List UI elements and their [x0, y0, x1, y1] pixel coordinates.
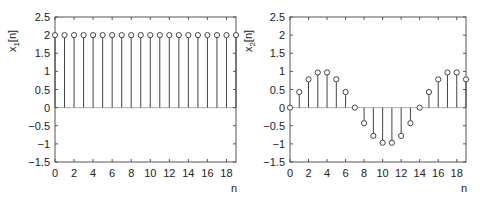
y-tick-label: 0.5	[35, 84, 50, 96]
plot-frame	[290, 17, 466, 162]
stem-marker	[81, 33, 86, 38]
x-tick-label: 2	[71, 167, 77, 179]
stem-marker	[129, 33, 134, 38]
x-tick-label: 12	[163, 167, 175, 179]
x-tick-label: 0	[287, 167, 293, 179]
y-tick-label: 2.5	[270, 11, 285, 23]
stem-marker	[71, 33, 76, 38]
x-tick-label: 18	[220, 167, 232, 179]
x-tick-label: 6	[343, 167, 349, 179]
stem-marker	[100, 33, 105, 38]
stem-marker	[436, 77, 441, 82]
stem-marker	[110, 33, 115, 38]
stem-marker	[417, 105, 422, 110]
x-axis-label: n	[461, 182, 467, 194]
x-tick-label: 10	[144, 167, 156, 179]
y-tick-label: 2	[44, 29, 50, 41]
stem-marker	[148, 33, 153, 38]
stem-marker	[91, 33, 96, 38]
x-tick-label: 4	[324, 167, 330, 179]
x-tick-label: 18	[451, 167, 463, 179]
stem-marker	[186, 33, 191, 38]
y-tick-label: 1.5	[35, 47, 50, 59]
stem-marker	[297, 89, 302, 94]
stem-marker	[287, 105, 292, 110]
stem-marker	[352, 105, 357, 110]
plot-x2: 024681012141618−1.5−1−0.500.511.522.5nx2…	[242, 11, 469, 194]
y-tick-label: −0.5	[263, 120, 285, 132]
y-tick-label: 1	[44, 65, 50, 77]
stem-marker	[62, 33, 67, 38]
stem-marker	[463, 77, 468, 82]
y-tick-label: 1	[279, 65, 285, 77]
stem-marker	[343, 89, 348, 94]
stem-marker	[224, 33, 229, 38]
x-tick-label: 8	[361, 167, 367, 179]
stem-marker	[214, 33, 219, 38]
y-tick-label: −1	[272, 138, 285, 150]
x-tick-label: 8	[128, 167, 134, 179]
x-tick-label: 12	[395, 167, 407, 179]
y-tick-label: −1.5	[28, 156, 50, 168]
stem-marker	[138, 33, 143, 38]
stem-marker	[454, 70, 459, 75]
y-tick-label: 2	[279, 29, 285, 41]
stem-marker	[408, 121, 413, 126]
y-tick-label: 0.5	[270, 84, 285, 96]
x-tick-label: 16	[432, 167, 444, 179]
stem-marker	[167, 33, 172, 38]
x-tick-label: 0	[52, 167, 58, 179]
stem-marker	[371, 133, 376, 138]
stem-marker	[306, 77, 311, 82]
y-tick-label: 1.5	[270, 47, 285, 59]
stem-marker	[315, 70, 320, 75]
stem-marker	[119, 33, 124, 38]
y-axis-label: x2[n]	[242, 30, 257, 52]
stem-marker	[399, 133, 404, 138]
y-tick-label: −0.5	[28, 120, 50, 132]
stem-marker	[426, 89, 431, 94]
y-tick-label: 0	[279, 102, 285, 114]
x-tick-label: 6	[109, 167, 115, 179]
y-tick-label: 2.5	[35, 11, 50, 23]
y-tick-label: −1	[37, 138, 50, 150]
x-tick-label: 16	[201, 167, 213, 179]
y-axis-label: x1[n]	[6, 30, 21, 52]
x-tick-label: 14	[414, 167, 426, 179]
stem-plots-figure: 024681012141618−1.5−1−0.500.511.522.5nx1…	[0, 0, 484, 203]
stem-marker	[157, 33, 162, 38]
x-tick-label: 14	[182, 167, 194, 179]
stem-marker	[380, 140, 385, 145]
stem-marker	[52, 33, 57, 38]
stem-marker	[233, 33, 238, 38]
x-tick-label: 2	[305, 167, 311, 179]
stem-marker	[205, 33, 210, 38]
x-axis-label: n	[231, 182, 237, 194]
plot-x1: 024681012141618−1.5−1−0.500.511.522.5nx1…	[6, 11, 239, 194]
stem-marker	[362, 121, 367, 126]
y-tick-label: 0	[44, 102, 50, 114]
x-tick-label: 10	[377, 167, 389, 179]
plot-frame	[55, 17, 236, 162]
stem-marker	[324, 70, 329, 75]
stem-marker	[334, 77, 339, 82]
stem-marker	[445, 70, 450, 75]
stem-marker	[195, 33, 200, 38]
y-tick-label: −1.5	[263, 156, 285, 168]
stem-marker	[389, 140, 394, 145]
x-tick-label: 4	[90, 167, 96, 179]
stem-marker	[176, 33, 181, 38]
